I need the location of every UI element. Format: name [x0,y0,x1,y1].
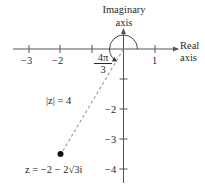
imaginary-axis-label-line1: Imaginary [97,4,151,15]
imaginary-axis-label-line2: axis [97,17,151,28]
imag-tick-label-neg3: −3 [105,134,116,145]
real-tick-label-1: 1 [152,55,157,66]
modulus-label: |z| = 4 [46,95,71,106]
imaginary-axis-label: Imaginary axis [97,4,151,28]
real-tick-label-neg2: −2 [52,55,63,66]
real-axis-label-line1: Real [180,40,199,51]
angle-numerator: 4π [94,52,112,64]
imag-tick-label-neg2: −2 [105,104,116,115]
angle-denominator: 3 [94,64,112,75]
point-z [58,151,64,157]
point-label: z = −2 − 2√3i [25,164,82,175]
real-tick-label-neg3: −3 [21,55,32,66]
angle-label: 4π 3 [94,52,112,75]
real-axis-label-line2: axis [180,52,199,63]
real-axis-label: Real axis [180,40,199,63]
imag-tick-label-neg4: −4 [105,164,116,175]
